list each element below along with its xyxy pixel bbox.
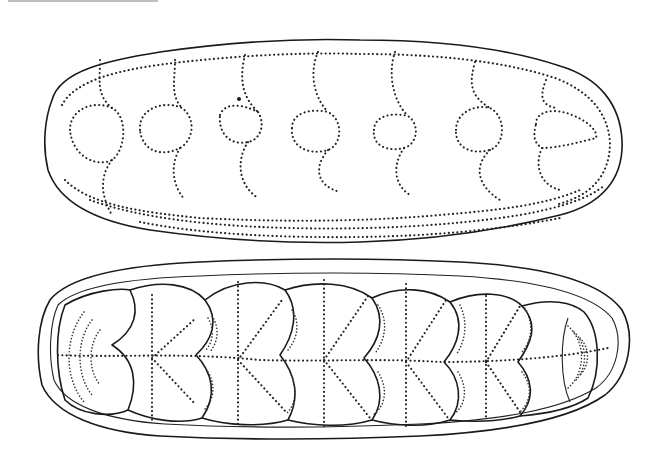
upper-mark-dot <box>237 97 241 101</box>
lower-end-arcs <box>69 312 588 402</box>
upper-lobes <box>70 105 596 162</box>
drawing-canvas <box>0 0 666 474</box>
upper-segment-dividers <box>100 52 560 215</box>
lower-outline-inner <box>51 273 619 427</box>
upper-specimen <box>45 40 622 243</box>
lower-specimen <box>38 259 629 439</box>
lower-valves <box>58 283 598 426</box>
specimen-figure <box>0 0 666 474</box>
upper-inner-margin <box>62 53 610 205</box>
upper-lower-band-1 <box>65 180 580 221</box>
